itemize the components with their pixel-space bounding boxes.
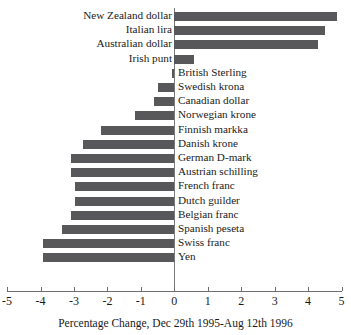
x-axis-line — [7, 291, 342, 292]
x-axis-tick — [342, 287, 343, 291]
bar-row: New Zealand dollar — [0, 10, 351, 24]
bar — [71, 154, 175, 163]
x-axis-tick-label: 5 — [339, 294, 345, 308]
x-axis-tick-label: 3 — [272, 294, 278, 308]
bar — [174, 26, 325, 35]
x-axis-tick — [7, 287, 8, 291]
bar-row: Swiss franc — [0, 237, 351, 251]
x-axis-tick — [308, 287, 309, 291]
bar-row: German D-mark — [0, 152, 351, 166]
x-axis-tick-label: 2 — [238, 294, 244, 308]
x-axis-tick-label: 4 — [305, 294, 311, 308]
bar — [174, 55, 194, 64]
x-axis-tick — [107, 287, 108, 291]
bar-category-label: Swedish krona — [178, 80, 244, 93]
x-axis-tick — [174, 287, 175, 291]
x-axis-tick — [208, 287, 209, 291]
bar-category-label: French franc — [178, 179, 235, 192]
x-axis-tick — [275, 287, 276, 291]
bar — [75, 197, 174, 206]
bar-category-label: German D-mark — [178, 151, 252, 164]
bar-row: Norwegian krone — [0, 109, 351, 123]
bar-category-label: Austrian schilling — [178, 165, 258, 178]
bar-row: Danish krone — [0, 138, 351, 152]
bar-row: Dutch guilder — [0, 195, 351, 209]
bar-row: Irish punt — [0, 53, 351, 67]
x-axis-tick — [241, 287, 242, 291]
bar-row: Australian dollar — [0, 38, 351, 52]
bar-category-label: Swiss franc — [178, 236, 230, 249]
bar — [71, 168, 175, 177]
bar-row: Spanish peseta — [0, 223, 351, 237]
x-axis-tick-label: -2 — [102, 294, 112, 308]
x-axis-tick — [74, 287, 75, 291]
bar-row: Belgian franc — [0, 209, 351, 223]
bar-category-label: New Zealand dollar — [83, 9, 172, 22]
bar-row: French franc — [0, 180, 351, 194]
x-axis-tick-label: 0 — [171, 294, 177, 308]
bar — [158, 83, 175, 92]
x-axis-caption: Percentage Change, Dec 29th 1995-Aug 12t… — [0, 316, 351, 330]
bar-category-label: Norwegian krone — [178, 108, 256, 121]
bar-row: British Sterling — [0, 67, 351, 81]
bar-row: Finnish markka — [0, 124, 351, 138]
bar — [75, 182, 174, 191]
bar-category-label: Australian dollar — [97, 37, 173, 50]
plot-area: New Zealand dollarItalian liraAustralian… — [0, 0, 351, 292]
bar-row: Yen — [0, 251, 351, 265]
bar-category-label: Danish krone — [178, 137, 238, 150]
bar-row: Swedish krona — [0, 81, 351, 95]
bar — [101, 126, 174, 135]
x-axis-tick-label: 1 — [205, 294, 211, 308]
x-axis-tick-label: -4 — [36, 294, 46, 308]
currency-percentage-change-chart: New Zealand dollarItalian liraAustralian… — [0, 0, 351, 335]
bar — [135, 111, 174, 120]
bar-category-label: Irish punt — [129, 52, 172, 65]
x-axis-tick-label: -1 — [136, 294, 146, 308]
bar — [174, 12, 336, 21]
bar-category-label: Dutch guilder — [178, 194, 240, 207]
x-axis-tick-label: -3 — [69, 294, 79, 308]
bar-row: Austrian schilling — [0, 166, 351, 180]
bar — [71, 211, 174, 220]
bar-row: Canadian dollar — [0, 95, 351, 109]
x-axis-tick-label: -5 — [2, 294, 12, 308]
bar — [83, 140, 174, 149]
bar — [154, 97, 174, 106]
bar-category-label: Italian lira — [126, 23, 172, 36]
bar — [43, 253, 174, 262]
bar-row: Italian lira — [0, 24, 351, 38]
bar — [62, 225, 174, 234]
bar-category-label: Finnish markka — [178, 123, 248, 136]
bar — [172, 69, 174, 78]
bar — [174, 40, 318, 49]
bar-category-label: Spanish peseta — [178, 222, 244, 235]
bar-category-label: Canadian dollar — [178, 94, 249, 107]
bar-category-label: British Sterling — [178, 66, 247, 79]
x-axis-tick — [41, 287, 42, 291]
x-axis-tick — [141, 287, 142, 291]
bar-category-label: Belgian franc — [178, 208, 239, 221]
bar — [43, 239, 174, 248]
bar-category-label: Yen — [178, 250, 196, 263]
